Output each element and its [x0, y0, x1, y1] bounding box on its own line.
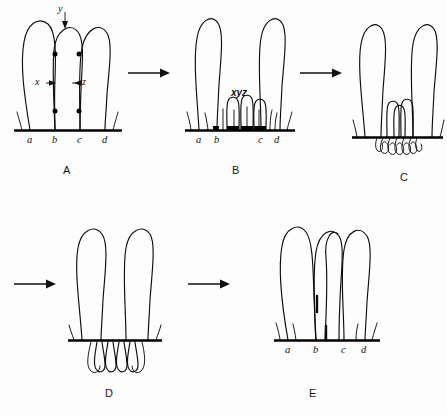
panel-c-drawing — [347, 12, 447, 162]
label-xyz: xyz — [231, 88, 247, 98]
tick-label-a: a — [27, 135, 32, 146]
node-marker — [53, 52, 58, 57]
panel-d — [58, 222, 168, 377]
panel-a-drawing — [8, 4, 138, 144]
tick-label-d: d — [102, 135, 107, 146]
arrow-a-to-b — [128, 66, 174, 80]
label-z: z — [82, 77, 86, 87]
node-marker — [77, 109, 82, 114]
tick-label-c: c — [258, 135, 263, 146]
figure-canvas: y x z a b c d A — [0, 0, 447, 415]
tick-label-a: a — [196, 135, 201, 146]
tick-label-c: c — [341, 345, 346, 356]
panel-e: a b c d — [268, 222, 388, 372]
label-x: x — [35, 77, 39, 87]
panel-letter-c: C — [400, 172, 408, 183]
node-marker — [77, 52, 82, 57]
tick-label-a: a — [285, 345, 290, 356]
panel-letter-a: A — [63, 165, 71, 176]
panel-b-drawing — [183, 4, 303, 144]
panel-letter-e: E — [309, 388, 317, 399]
panel-b: xyz a b c d — [183, 4, 303, 144]
tick-label-b: b — [313, 345, 318, 356]
panel-a: y x z a b c d — [8, 4, 138, 144]
tick-label-b: b — [214, 135, 219, 146]
panel-d-drawing — [58, 222, 168, 377]
panel-letter-d: D — [105, 388, 113, 399]
label-y: y — [58, 4, 62, 14]
tick-label-d: d — [361, 345, 366, 356]
tick-label-b: b — [52, 135, 57, 146]
panel-letter-b: B — [232, 165, 240, 176]
tick-label-c: c — [77, 135, 82, 146]
arrow-d-to-e — [188, 277, 234, 291]
tick-label-d: d — [274, 135, 279, 146]
node-marker — [53, 109, 58, 114]
arrow-b-to-c — [300, 66, 346, 80]
panel-c — [347, 12, 447, 162]
arrow-c-to-d — [14, 277, 60, 291]
